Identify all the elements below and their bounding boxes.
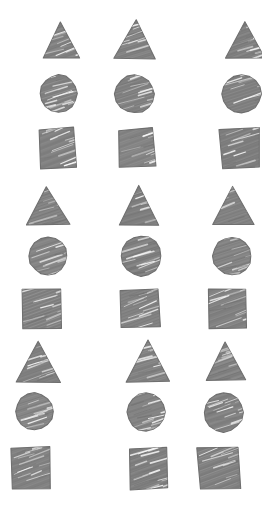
triangle-icon: triangle [125,340,170,383]
triangle-body [26,186,70,225]
square-icon: square [127,446,168,490]
circle-shape: circle [212,236,252,276]
circle-body [16,393,54,430]
square-shape: square [116,127,155,168]
circle-shape: circle [120,235,162,277]
square-icon: square [9,446,52,491]
triangle-shape: triangle [125,340,170,383]
triangle-shape: triangle [223,19,262,59]
triangle-shape: triangle [25,185,71,227]
circle-body [121,236,161,276]
circle-shape: circle [114,74,155,114]
triangle-body [206,342,246,381]
circle-icon: circle [28,236,68,276]
square-icon: square [116,127,155,168]
circle-shape: circle [28,236,68,276]
circle-icon: circle [126,392,166,432]
square-icon: square [119,287,161,330]
triangle-shape: triangle [14,339,62,383]
shapes-canvas: Hand-sketched shapes grid triangletriang… [0,0,262,513]
triangle-icon: triangle [223,19,262,59]
triangle-icon: triangle [14,339,62,383]
circle-shape: circle [203,392,244,433]
square-shape: square [127,446,168,490]
circle-icon: circle [120,235,162,277]
square-body [10,446,52,491]
circle-shape: circle [126,392,166,432]
triangle-shape: triangle [117,184,160,226]
square-shape: square [37,127,77,169]
triangle-icon: triangle [204,341,247,383]
triangle-icon: triangle [212,185,256,227]
square-shape: square [9,446,52,491]
square-shape: square [21,287,62,329]
square-shape: square [219,127,261,169]
square-icon: square [219,127,261,169]
triangle-icon: triangle [117,184,160,226]
triangle-icon: triangle [25,185,71,227]
square-icon: square [207,287,248,329]
circle-icon: circle [212,236,252,276]
square-shape: square [207,287,248,329]
circle-shape: circle [15,392,54,431]
triangle-shape: triangle [40,19,80,59]
circle-icon: circle [221,74,262,114]
triangle-shape: triangle [114,19,158,60]
circle-body [213,238,251,275]
square-body [219,128,261,169]
circle-icon: circle [203,392,244,433]
square-icon: square [37,127,77,169]
square-icon: square [21,287,62,329]
triangle-shape: triangle [212,185,256,227]
circle-icon: circle [114,74,155,114]
circle-shape: circle [39,74,78,113]
square-icon: square [197,446,241,491]
circle-shape: circle [221,74,262,114]
circle-icon: circle [39,74,78,113]
triangle-icon: triangle [114,19,158,60]
circle-icon: circle [15,392,54,431]
circle-body [114,75,154,113]
square-shape: square [119,287,161,330]
triangle-icon: triangle [40,19,80,59]
square-shape: square [197,446,241,491]
triangle-shape: triangle [204,341,247,383]
